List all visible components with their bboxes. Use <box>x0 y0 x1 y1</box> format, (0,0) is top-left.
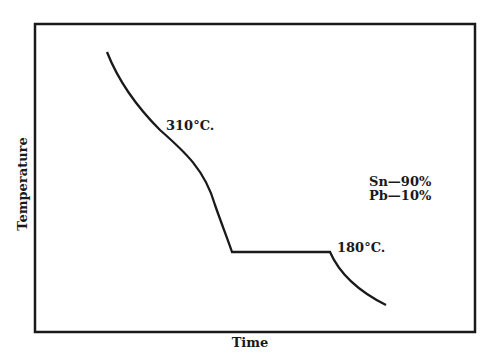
annotation-180: 180°C. <box>337 240 385 255</box>
composition-pb: Pb—10% <box>369 188 432 203</box>
y-axis-label: Temperature <box>15 137 30 230</box>
annotation-310: 310°C. <box>166 118 214 133</box>
x-axis-label: Time <box>232 335 269 350</box>
cooling-curve <box>107 52 386 305</box>
chart: 310°C. 180°C. Sn—90% Pb—10% Time Tempera… <box>0 0 495 360</box>
composition-sn: Sn—90% <box>369 174 432 189</box>
